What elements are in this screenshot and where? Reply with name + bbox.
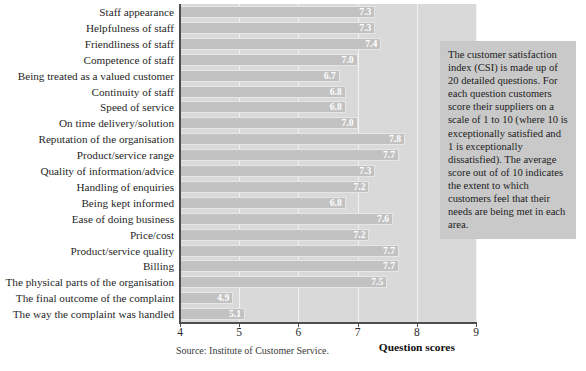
category-label: The physical parts of the organisation bbox=[0, 274, 174, 290]
category-label: Ease of doing business bbox=[0, 211, 174, 227]
bar[interactable] bbox=[180, 54, 358, 66]
bar-value-label: 7.7 bbox=[383, 245, 399, 257]
x-axis-tick-label: 8 bbox=[414, 326, 420, 338]
bar[interactable] bbox=[180, 149, 399, 161]
bar[interactable] bbox=[180, 213, 393, 225]
bar-row: The physical parts of the organisation7.… bbox=[0, 274, 586, 290]
bar-value-label: 7.0 bbox=[342, 54, 358, 66]
bar-value-label: 4.9 bbox=[217, 292, 233, 304]
bar[interactable] bbox=[180, 101, 346, 113]
bar[interactable] bbox=[180, 229, 369, 241]
bar[interactable] bbox=[180, 38, 381, 50]
bar[interactable] bbox=[180, 165, 375, 177]
category-label: The final outcome of the complaint bbox=[0, 290, 174, 306]
chart-figure: Staff appearance7.3Helpfulness of staff7… bbox=[0, 0, 586, 371]
source-note: Source: Institute of Customer Service. bbox=[176, 345, 329, 356]
bar-value-label: 7.2 bbox=[353, 181, 369, 193]
bar[interactable] bbox=[180, 276, 387, 288]
category-label: The way the complaint was handled bbox=[0, 306, 174, 322]
bar-row: Helpfulness of staff7.3 bbox=[0, 20, 586, 36]
bar[interactable] bbox=[180, 181, 369, 193]
category-label: Competence of staff bbox=[0, 52, 174, 68]
bar-value-label: 7.7 bbox=[383, 260, 399, 272]
bar-value-label: 7.8 bbox=[389, 133, 405, 145]
annotation-textbox: The customer satisfaction index (CSI) is… bbox=[440, 41, 576, 239]
x-axis-line bbox=[179, 322, 477, 324]
category-label: Product/service range bbox=[0, 147, 174, 163]
category-label: Helpfulness of staff bbox=[0, 20, 174, 36]
category-label: Handling of enquiries bbox=[0, 179, 174, 195]
bar-value-label: 7.4 bbox=[365, 38, 381, 50]
bar[interactable] bbox=[180, 133, 405, 145]
bar-value-label: 7.0 bbox=[342, 117, 358, 129]
bar-value-label: 7.6 bbox=[377, 213, 393, 225]
x-axis-tick-label: 4 bbox=[177, 326, 183, 338]
bar-row: Staff appearance7.3 bbox=[0, 4, 586, 20]
x-axis-tick-label: 5 bbox=[236, 326, 242, 338]
category-label: Reputation of the organisation bbox=[0, 131, 174, 147]
bar[interactable] bbox=[180, 117, 358, 129]
category-label: Staff appearance bbox=[0, 4, 174, 20]
bar-row: Billing7.7 bbox=[0, 258, 586, 274]
bar-value-label: 6.7 bbox=[324, 70, 340, 82]
category-label: Billing bbox=[0, 258, 174, 274]
bar-row: The final outcome of the complaint4.9 bbox=[0, 290, 586, 306]
bar-value-label: 7.3 bbox=[359, 165, 375, 177]
x-axis-tick-label: 6 bbox=[296, 326, 302, 338]
x-axis-title: Question scores bbox=[379, 341, 455, 353]
bar[interactable] bbox=[180, 245, 399, 257]
bar-value-label: 7.3 bbox=[359, 22, 375, 34]
bar[interactable] bbox=[180, 70, 340, 82]
category-label: Product/service quality bbox=[0, 243, 174, 259]
bar-row: Product/service quality7.7 bbox=[0, 243, 586, 259]
x-axis-tick-label: 7 bbox=[355, 326, 361, 338]
bar-value-label: 6.8 bbox=[330, 101, 346, 113]
bar-value-label: 7.7 bbox=[383, 149, 399, 161]
bar[interactable] bbox=[180, 197, 346, 209]
category-label: Being kept informed bbox=[0, 195, 174, 211]
bar[interactable] bbox=[180, 6, 375, 18]
category-label: Price/cost bbox=[0, 227, 174, 243]
x-axis-tick-label: 9 bbox=[473, 326, 479, 338]
category-label: On time delivery/solution bbox=[0, 115, 174, 131]
category-label: Quality of information/advice bbox=[0, 163, 174, 179]
bar-row: The way the complaint was handled5.1 bbox=[0, 306, 586, 322]
bar-value-label: 6.8 bbox=[330, 86, 346, 98]
bar[interactable] bbox=[180, 22, 375, 34]
category-label: Being treated as a valued customer bbox=[0, 68, 174, 84]
category-label: Speed of service bbox=[0, 99, 174, 115]
bar[interactable] bbox=[180, 86, 346, 98]
bar[interactable] bbox=[180, 260, 399, 272]
bar-value-label: 5.1 bbox=[229, 308, 245, 320]
bar-value-label: 7.5 bbox=[371, 276, 387, 288]
bar-value-label: 6.8 bbox=[330, 197, 346, 209]
y-axis-line bbox=[179, 4, 181, 323]
bar-value-label: 7.2 bbox=[353, 229, 369, 241]
category-label: Friendliness of staff bbox=[0, 36, 174, 52]
category-label: Continuity of staff bbox=[0, 84, 174, 100]
bar-value-label: 7.3 bbox=[359, 6, 375, 18]
